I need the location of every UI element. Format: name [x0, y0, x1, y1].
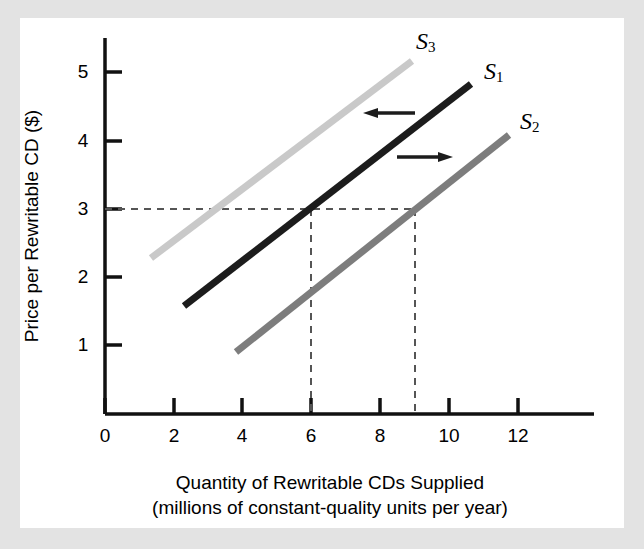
curve-label-S1-text: S — [484, 58, 496, 84]
curve-label-S2: S2 — [520, 108, 540, 136]
curve-label-S1-sub: 1 — [496, 69, 504, 85]
x-tick-label-12: 12 — [505, 425, 531, 447]
x-tick-label-4: 4 — [230, 425, 254, 447]
x-tick-label-6: 6 — [299, 425, 323, 447]
y-tick-label-1: 1 — [72, 334, 94, 356]
shift-left-arrow — [363, 108, 415, 118]
shift-right-arrow — [397, 152, 453, 162]
supply-curve-S2 — [236, 135, 509, 352]
x-tick-label-0: 0 — [93, 425, 117, 447]
curve-label-S3-sub: 3 — [428, 39, 436, 55]
curve-label-S3: S3 — [416, 28, 436, 56]
y-tick-label-3: 3 — [72, 198, 94, 220]
x-tick-label-8: 8 — [368, 425, 392, 447]
supply-curve-chart — [0, 0, 644, 549]
curve-label-S1: S1 — [484, 58, 504, 86]
x-axis-title-line2: (millions of constant-quality units per … — [80, 495, 580, 520]
x-tick-label-10: 10 — [436, 425, 462, 447]
x-axis-title: Quantity of Rewritable CDs Supplied (mil… — [80, 470, 580, 520]
y-tick-label-4: 4 — [72, 130, 94, 152]
curve-label-S3-text: S — [416, 28, 428, 54]
reference-lines — [105, 209, 418, 414]
x-axis-title-line1: Quantity of Rewritable CDs Supplied — [80, 470, 580, 495]
y-axis-title: Price per Rewritable CD ($) — [21, 76, 43, 376]
supply-curves — [151, 61, 509, 352]
x-tick-label-2: 2 — [162, 425, 186, 447]
y-tick-label-2: 2 — [72, 266, 94, 288]
figure-container: 5 4 3 2 1 0 2 4 6 8 10 12 S3 S1 S2 Price… — [0, 0, 644, 549]
axes — [105, 38, 594, 414]
curve-label-S2-sub: 2 — [532, 119, 540, 135]
y-tick-label-5: 5 — [72, 61, 94, 83]
curve-label-S2-text: S — [520, 108, 532, 134]
